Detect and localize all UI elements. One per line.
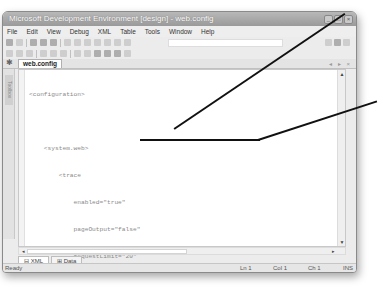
toolbar-right-group: [325, 39, 350, 46]
toolbox-label[interactable]: Toolbox: [5, 75, 13, 105]
code-line: pageOutput="false": [29, 225, 170, 234]
menu-file[interactable]: File: [7, 26, 17, 37]
increase-indent-icon[interactable]: [74, 50, 81, 57]
title-bar: Microsoft Development Environment [desig…: [3, 12, 356, 26]
menu-edit[interactable]: Edit: [26, 26, 37, 37]
undo-icon[interactable]: [94, 39, 101, 46]
toolbar-separator: [26, 39, 27, 47]
paste-icon[interactable]: [84, 39, 91, 46]
save-all-icon[interactable]: [50, 39, 57, 46]
vertical-scrollbar[interactable]: ▲ ▼: [337, 70, 345, 246]
menu-bar: File Edit View Debug XML Table Tools Win…: [3, 26, 356, 37]
toolbox-strip[interactable]: Toolbox: [3, 69, 15, 239]
menu-help[interactable]: Help: [201, 26, 214, 37]
redo-icon[interactable]: [104, 39, 111, 46]
code-line: <configuration>: [29, 90, 170, 99]
window-title: Microsoft Development Environment [desig…: [9, 12, 214, 26]
code-line: <trace: [29, 171, 170, 180]
status-char: Ch 1: [308, 264, 321, 273]
clear-bookmarks-icon[interactable]: [124, 50, 131, 57]
indent-icon[interactable]: [6, 50, 13, 57]
word-wrap-icon[interactable]: [60, 50, 67, 57]
find-icon[interactable]: [124, 39, 131, 46]
solution-explorer-icon[interactable]: [325, 39, 332, 46]
font-size-icon[interactable]: [26, 50, 33, 57]
editor-gutter: [19, 70, 25, 246]
close-button[interactable]: ×: [344, 15, 353, 24]
copy-icon[interactable]: [74, 39, 81, 46]
scroll-down-icon[interactable]: ▼: [339, 239, 345, 245]
uncomment-icon[interactable]: [50, 50, 57, 57]
bookmark-icon[interactable]: [94, 50, 101, 57]
xml-toolbar: [3, 48, 356, 59]
code-editor[interactable]: <configuration> <system.web> <trace enab…: [18, 69, 346, 247]
status-mode: INS: [343, 264, 353, 273]
callout-line-localonly: [140, 139, 260, 141]
cut-icon[interactable]: [64, 39, 71, 46]
outdent-icon[interactable]: [16, 50, 23, 57]
code-line: [29, 117, 170, 126]
save-icon[interactable]: [40, 39, 47, 46]
toolbox-icon[interactable]: [343, 39, 350, 46]
solution-config-combo[interactable]: [168, 39, 283, 47]
next-bookmark-icon[interactable]: [104, 50, 111, 57]
status-line: Ln 1: [240, 264, 252, 273]
prev-bookmark-icon[interactable]: [114, 50, 121, 57]
status-text: Ready: [5, 264, 22, 273]
menu-view[interactable]: View: [47, 26, 61, 37]
status-col: Col 1: [273, 264, 287, 273]
code-line: enabled="true": [29, 198, 170, 207]
menu-xml[interactable]: XML: [98, 26, 111, 37]
status-bar: Ready Ln 1 Col 1 Ch 1 INS: [3, 263, 356, 272]
scroll-left-icon[interactable]: ◂: [20, 248, 26, 254]
tab-nav-controls[interactable]: ◂ ▸ ×: [329, 60, 352, 67]
ide-window: Microsoft Development Environment [desig…: [2, 11, 357, 273]
horizontal-scroll-thumb[interactable]: [27, 249, 187, 254]
menu-tools[interactable]: Tools: [145, 26, 160, 37]
code-line: <system.web>: [29, 144, 170, 153]
menu-debug[interactable]: Debug: [70, 26, 89, 37]
properties-icon[interactable]: [334, 39, 341, 46]
horizontal-scrollbar[interactable]: ◂ ▸: [18, 247, 346, 255]
toolbar-separator: [70, 50, 71, 58]
add-item-icon[interactable]: [16, 39, 23, 46]
menu-window[interactable]: Window: [169, 26, 192, 37]
scroll-right-icon[interactable]: ▸: [330, 248, 336, 254]
scroll-up-icon[interactable]: ▲: [339, 71, 345, 77]
document-tab-strip: ✱ web.config ◂ ▸ ×: [3, 59, 356, 69]
toolbox-pin-icon[interactable]: ✱: [6, 58, 16, 68]
new-project-icon[interactable]: [6, 39, 13, 46]
toolbar-separator: [36, 50, 37, 58]
open-file-icon[interactable]: [30, 39, 37, 46]
comment-icon[interactable]: [40, 50, 47, 57]
tab-web-config[interactable]: web.config: [18, 59, 62, 68]
navigate-icon[interactable]: [114, 39, 121, 46]
menu-table[interactable]: Table: [120, 26, 136, 37]
decrease-indent-icon[interactable]: [84, 50, 91, 57]
code-content[interactable]: <configuration> <system.web> <trace enab…: [29, 72, 170, 273]
toolbar-separator: [60, 39, 61, 47]
